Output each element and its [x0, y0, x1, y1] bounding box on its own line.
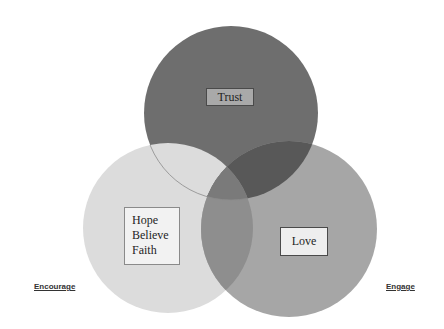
hope-believe-faith-box: Hope Believe Faith: [124, 207, 180, 265]
believe-text: Believe: [132, 228, 179, 243]
encourage-label: Encourage: [34, 282, 75, 291]
hope-text: Hope: [132, 213, 179, 228]
trust-label-box: Trust: [206, 88, 254, 106]
engage-label: Engage: [386, 282, 415, 291]
love-label-box: Love: [280, 227, 328, 256]
venn-diagram: [0, 0, 444, 329]
faith-text: Faith: [132, 243, 179, 258]
